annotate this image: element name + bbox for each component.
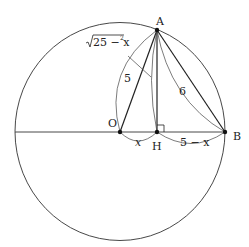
point-A xyxy=(155,28,159,32)
length-HB: 5 − x xyxy=(180,136,210,149)
point-O xyxy=(118,130,122,134)
leader-line xyxy=(128,56,151,77)
segment-AB xyxy=(157,30,225,132)
point-H xyxy=(155,130,159,134)
label-O: O xyxy=(108,117,117,130)
geometry-diagram: A O H B 5 6 x 5 − x 25 − x 2 xyxy=(0,0,249,247)
arc-AH xyxy=(152,30,158,132)
sqrt-radicand: 25 − x xyxy=(93,36,130,49)
label-B: B xyxy=(233,130,241,143)
point-B xyxy=(223,130,227,134)
sqrt-exponent: 2 xyxy=(120,34,124,41)
label-H: H xyxy=(152,140,162,153)
length-OH: x xyxy=(135,136,142,149)
label-A: A xyxy=(155,15,165,28)
length-OA: 5 xyxy=(124,72,131,85)
length-AH: 25 − x 2 xyxy=(86,34,130,49)
length-AB: 6 xyxy=(179,85,186,98)
